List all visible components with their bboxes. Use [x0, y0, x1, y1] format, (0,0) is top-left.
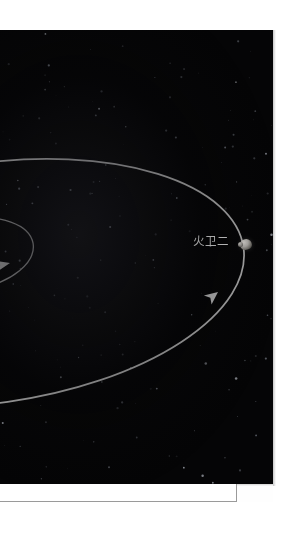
moon-deimos [240, 239, 252, 250]
orbital-diagram-panel: 火卫二 [0, 30, 273, 484]
orbit-paths [0, 30, 273, 484]
page-right-margin [273, 0, 290, 534]
outer-orbit-ellipse [0, 129, 260, 438]
inner-orbit-ellipse [0, 209, 39, 299]
page-bottom-margin [0, 502, 290, 534]
page-canvas: 火卫二 [0, 0, 290, 534]
caption-box [0, 484, 237, 502]
caption-box-inner [0, 484, 236, 501]
outer-orbit-direction-arrow [204, 287, 222, 305]
inner-orbit-direction-arrow [0, 257, 11, 271]
moon-label-deimos: 火卫二 [193, 236, 229, 248]
page-top-margin [0, 0, 290, 30]
